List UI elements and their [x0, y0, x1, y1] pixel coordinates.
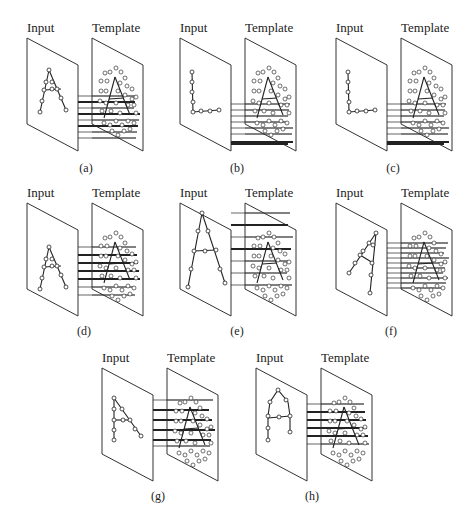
template-feature-node	[110, 129, 114, 133]
template-feature-node	[193, 411, 197, 415]
template-feature-node	[99, 89, 103, 93]
panel-caption: (a)	[79, 161, 92, 175]
template-feature-node	[130, 97, 134, 101]
input-plane-title: Input	[180, 185, 208, 200]
template-feature-node	[99, 244, 103, 248]
template-feature-node	[258, 244, 262, 248]
input-feature-node	[347, 100, 351, 104]
template-feature-node	[262, 274, 266, 278]
template-feature-node	[132, 286, 136, 290]
input-feature-node	[223, 281, 227, 285]
panel-g: InputTemplate(g)	[102, 350, 218, 503]
template-feature-node	[183, 400, 187, 404]
template-feature-node	[194, 400, 198, 404]
template-feature-node	[267, 266, 271, 270]
template-feature-node	[120, 123, 124, 127]
template-feature-node	[108, 123, 112, 127]
input-feature-node	[40, 99, 44, 103]
template-feature-node	[132, 121, 136, 125]
template-feature-node	[423, 266, 427, 270]
template-feature-node	[205, 417, 209, 421]
input-feature-node	[361, 249, 365, 253]
input-plane	[180, 38, 231, 151]
input-plane	[102, 368, 153, 481]
template-feature-node	[271, 111, 275, 115]
template-feature-node	[347, 411, 351, 415]
template-feature-node	[339, 459, 343, 463]
panel-caption: (b)	[230, 161, 244, 175]
template-feature-node	[351, 459, 355, 463]
template-feature-node	[417, 235, 421, 239]
input-feature-node	[190, 90, 194, 94]
template-feature-node	[269, 298, 273, 302]
input-feature-node	[44, 257, 48, 261]
input-feature-node	[218, 267, 222, 271]
template-feature-node	[443, 95, 447, 99]
template-feature-node	[334, 409, 338, 413]
template-feature-node	[267, 284, 271, 288]
input-feature-node	[208, 109, 212, 113]
template-feature-node	[267, 119, 271, 123]
input-feature-node	[364, 109, 368, 113]
input-feature-node	[368, 291, 372, 295]
template-plane-title: Template	[245, 20, 293, 35]
template-feature-node	[363, 441, 367, 445]
template-feature-node	[425, 298, 429, 302]
input-feature-node	[44, 80, 48, 84]
template-feature-node	[105, 79, 109, 83]
template-feature-node	[261, 123, 265, 127]
input-plane-title: Input	[180, 20, 208, 35]
template-feature-node	[439, 87, 443, 91]
input-feature-node	[374, 231, 378, 235]
template-feature-node	[348, 400, 352, 404]
template-feature-node	[278, 249, 282, 253]
template-feature-node	[116, 298, 120, 302]
input-feature-node	[38, 110, 42, 114]
template-feature-node	[197, 459, 201, 463]
template-feature-node	[434, 249, 438, 253]
input-feature-node	[42, 88, 46, 92]
input-feature-node	[55, 264, 59, 268]
input-feature-node	[353, 261, 357, 265]
template-feature-node	[110, 294, 114, 298]
template-feature-node	[429, 123, 433, 127]
input-feature-node	[40, 276, 44, 280]
template-feature-node	[352, 406, 356, 410]
template-feature-node	[441, 286, 445, 290]
template-feature-node	[195, 453, 199, 457]
template-plane-title: Template	[401, 185, 449, 200]
template-feature-node	[122, 294, 126, 298]
template-feature-node	[413, 254, 417, 258]
template-plane-title: Template	[167, 350, 215, 365]
template-feature-node	[425, 133, 429, 137]
template-feature-node	[200, 414, 204, 418]
panel-c: InputTemplate(c)	[336, 20, 452, 175]
input-feature-node	[268, 400, 272, 404]
input-feature-node	[284, 398, 288, 402]
template-feature-node	[132, 268, 136, 272]
template-feature-node	[411, 286, 415, 290]
template-feature-node	[252, 244, 256, 248]
input-feature-node	[266, 426, 270, 430]
template-feature-node	[126, 119, 130, 123]
template-feature-node	[423, 66, 427, 70]
template-feature-node	[120, 288, 124, 292]
template-feature-node	[102, 121, 106, 125]
template-feature-node	[118, 246, 122, 250]
template-feature-node	[428, 70, 432, 74]
input-feature-node	[371, 243, 375, 247]
input-feature-node	[266, 438, 270, 442]
input-feature-node	[373, 108, 377, 112]
input-feature-node	[50, 80, 54, 84]
input-feature-node	[199, 109, 203, 113]
panel-caption: (d)	[77, 324, 91, 338]
template-feature-node	[409, 274, 413, 278]
template-feature-node	[123, 76, 127, 80]
template-feature-node	[429, 288, 433, 292]
input-feature-node	[346, 80, 350, 84]
template-feature-node	[205, 427, 209, 431]
template-feature-node	[114, 284, 118, 288]
template-feature-node	[363, 425, 367, 429]
template-feature-node	[134, 95, 138, 99]
template-feature-node	[285, 268, 289, 272]
